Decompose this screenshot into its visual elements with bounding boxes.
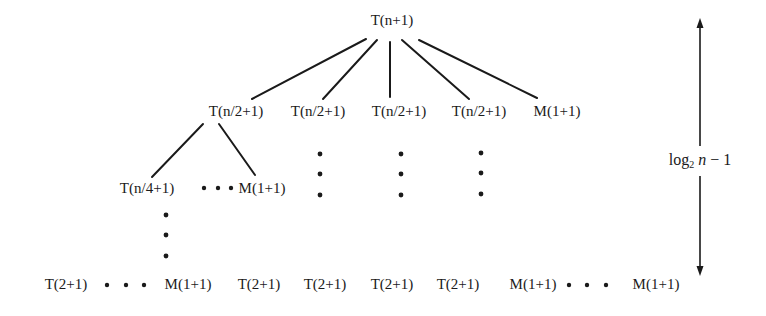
level1-node-0: T(n/2+1) [209, 104, 263, 119]
root-node: T(n+1) [371, 13, 414, 28]
leaf-node-6: M(1+1) [510, 277, 557, 292]
level1-node-1: T(n/2+1) [291, 104, 345, 119]
ellipsis-dot [399, 172, 404, 177]
ellipsis-dot [567, 283, 571, 287]
tree-edge [323, 40, 377, 99]
ellipsis-dot [479, 192, 484, 197]
ellipsis-dot [124, 283, 128, 287]
level2-node-1: M(1+1) [239, 181, 286, 196]
level1-node-3: T(n/2+1) [452, 104, 506, 119]
ellipsis-dot [399, 152, 404, 157]
ellipsis-dot [585, 283, 589, 287]
leaf-node-4: T(2+1) [371, 277, 414, 292]
tree-edge [219, 124, 255, 175]
arrow-down-icon [697, 266, 704, 276]
ellipsis-dot [318, 193, 323, 198]
ellipsis-dot [318, 172, 323, 177]
ellipsis-dot [142, 283, 146, 287]
level1-node-2: T(n/2+1) [372, 104, 426, 119]
ellipsis-dot [202, 186, 206, 190]
tree-edge [152, 124, 203, 177]
leaf-node-3: T(2+1) [304, 277, 347, 292]
recursion-tree-diagram [0, 0, 766, 316]
log-text: log [669, 151, 689, 168]
leaf-node-1: M(1+1) [165, 277, 212, 292]
ellipsis-dot [105, 283, 109, 287]
ellipsis-dot [479, 171, 484, 176]
ellipsis-dots [105, 151, 608, 288]
level1-node-4: M(1+1) [534, 104, 581, 119]
ellipsis-dot [164, 233, 169, 238]
leaf-node-7: M(1+1) [633, 277, 680, 292]
leaf-node-0: T(2+1) [45, 277, 88, 292]
level2-node-0: T(n/4+1) [120, 181, 174, 196]
tree-edge [419, 40, 537, 98]
leaf-node-5: T(2+1) [437, 277, 480, 292]
ellipsis-dot [318, 152, 323, 157]
ellipsis-dot [164, 254, 169, 259]
log-offset: − 1 [706, 151, 731, 168]
tree-edge [252, 39, 366, 99]
ellipsis-dot [164, 213, 169, 218]
ellipsis-dot [399, 193, 404, 198]
ellipsis-dot [216, 186, 220, 190]
leaf-node-2: T(2+1) [238, 277, 281, 292]
ellipsis-dot [479, 151, 484, 156]
ellipsis-dot [229, 186, 233, 190]
arrow-up-icon [697, 18, 704, 28]
tree-height-label: log2 n − 1 [667, 146, 733, 176]
ellipsis-dot [604, 283, 608, 287]
